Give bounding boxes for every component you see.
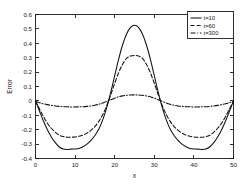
legend-label-t300: t=300 [204, 30, 220, 36]
legend-label-t10: t=10 [204, 15, 216, 21]
y-tick-label: -0.2 [21, 126, 32, 133]
y-tick-label: -0.3 [21, 140, 32, 147]
series-curve-t10 [36, 25, 234, 149]
x-tick-label: 0 [34, 161, 38, 168]
y-tick-label: 0 [29, 97, 33, 104]
x-tick-label: 50 [230, 161, 237, 168]
legend-label-t60: t=60 [204, 23, 216, 29]
x-tick-label: 20 [111, 161, 118, 168]
series-curve-t60 [36, 56, 234, 138]
y-tick-label: 0.3 [23, 54, 32, 61]
y-tick-label: -0.1 [21, 112, 32, 119]
y-tick-label: 0.5 [23, 25, 32, 32]
x-axis-label: x [133, 172, 137, 179]
x-tick-label: 30 [151, 161, 158, 168]
x-tick-label: 10 [72, 161, 79, 168]
y-tick-label: 0.1 [23, 83, 32, 90]
y-tick-label: 0.6 [23, 11, 32, 18]
y-tick-label: 0.2 [23, 68, 32, 75]
x-tick-label: 40 [190, 161, 197, 168]
error-line-chart: 010203040500.60.50.40.30.20.10-0.1-0.2-0… [0, 0, 247, 187]
y-axis-label: Error [6, 78, 13, 93]
figure-canvas: 010203040500.60.50.40.30.20.10-0.1-0.2-0… [0, 0, 247, 187]
y-tick-label: -0.4 [21, 155, 32, 162]
y-tick-label: 0.4 [23, 40, 32, 47]
series-curve-t300 [36, 95, 234, 107]
